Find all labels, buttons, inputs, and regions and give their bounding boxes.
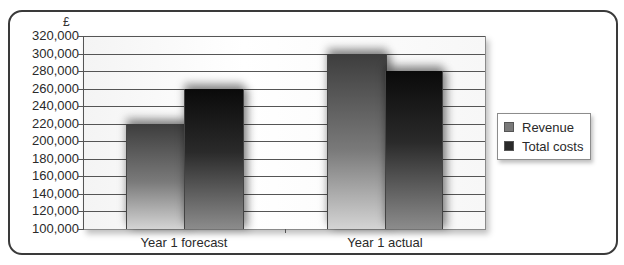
bar-total-costs-actual [385, 71, 443, 229]
revenue-swatch-icon [504, 122, 514, 132]
legend: Revenue Total costs [497, 113, 591, 160]
y-tick-label: 260,000 [9, 82, 79, 96]
y-tick-label: 120,000 [9, 204, 79, 218]
y-tick-label: 140,000 [9, 187, 79, 201]
y-tick-label: 280,000 [9, 64, 79, 78]
bar-total-costs-forecast [184, 89, 244, 229]
gridline [83, 36, 485, 37]
plot-area [83, 36, 486, 230]
y-tick-label: 200,000 [9, 134, 79, 148]
category-divider-tick [285, 229, 286, 233]
gridline [83, 54, 485, 55]
y-tick-label: 300,000 [9, 47, 79, 61]
y-axis-unit-label: £ [63, 15, 70, 29]
y-tick-label: 180,000 [9, 152, 79, 166]
legend-label-revenue: Revenue [522, 120, 574, 135]
y-axis-line [83, 36, 84, 230]
legend-item-total-costs: Total costs [504, 138, 583, 154]
bar-revenue-actual [327, 54, 387, 229]
x-axis-label-actual: Year 1 actual [305, 235, 465, 250]
y-tick-label: 160,000 [9, 169, 79, 183]
legend-item-revenue: Revenue [504, 119, 574, 135]
total-costs-swatch-icon [504, 141, 514, 151]
y-tick-label: 220,000 [9, 117, 79, 131]
x-axis-label-forecast: Year 1 forecast [104, 235, 264, 250]
y-tick-label: 240,000 [9, 99, 79, 113]
legend-label-total-costs: Total costs [522, 139, 583, 154]
bar-revenue-forecast [126, 124, 186, 229]
y-tick-label: 100,000 [9, 222, 79, 236]
y-tick-label: 320,000 [9, 29, 79, 43]
